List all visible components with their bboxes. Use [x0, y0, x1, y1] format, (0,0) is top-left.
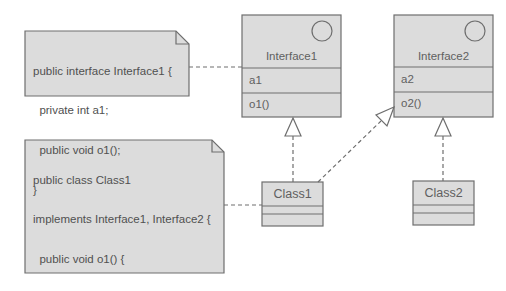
class-name-class1: Class1: [262, 187, 323, 201]
interface-attribute: a2: [401, 73, 414, 85]
interface-name-interface1: Interface1: [242, 50, 341, 62]
class-name-class2: Class2: [413, 186, 474, 200]
code-line: implements Interface1, Interface2 {: [33, 213, 211, 226]
code-line: public void o1() {: [33, 253, 211, 266]
code-line: private int a1;: [33, 104, 172, 117]
interface-operation: o2(): [401, 97, 421, 109]
realization-class1-interface1: [285, 118, 301, 182]
open-triangle-arrowhead-icon: [285, 118, 301, 136]
interface-attribute: a1: [249, 74, 262, 86]
note-class1-text: public class Class1 implements Interface…: [33, 147, 211, 291]
interface-operation: o1(): [249, 98, 269, 110]
code-line: public class Class1: [33, 174, 211, 187]
realization-class1-interface2: [318, 107, 394, 182]
code-line: public interface Interface1 {: [33, 65, 172, 78]
realization-class2-interface2: [435, 118, 451, 181]
open-triangle-arrowhead-icon: [435, 118, 451, 136]
interface-name-interface2: Interface2: [394, 50, 493, 62]
